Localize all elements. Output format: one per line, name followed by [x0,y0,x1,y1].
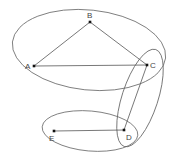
edge-ed [54,130,124,131]
edge-ac [34,65,147,66]
node-label-e: E [49,134,54,143]
node-c [146,64,149,67]
node-label-d: D [126,133,132,142]
graph-diagram: ABCDE [0,0,174,161]
node-label-c: C [150,61,156,70]
graph-nodes: ABCDE [25,11,156,143]
node-label-a: A [25,62,31,71]
edge-bc [90,22,147,65]
graph-edges [34,22,147,131]
node-label-b: B [87,11,92,20]
edge-ab [34,22,90,66]
node-d [123,129,126,132]
hyperedge-groups [8,2,173,155]
node-a [33,65,36,68]
edge-cd [124,65,147,130]
node-e [53,130,56,133]
node-b [89,21,92,24]
